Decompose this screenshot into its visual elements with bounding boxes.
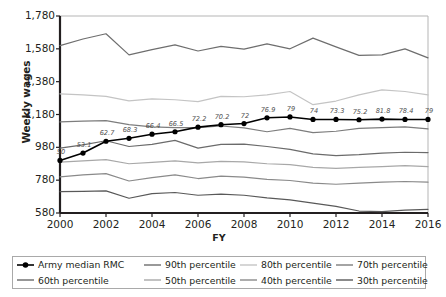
data-point-label: 68.3	[123, 126, 138, 134]
legend-grid: Army median RMC90th percentile80th perce…	[13, 257, 425, 288]
legend-item-label: 90th percentile	[165, 259, 236, 270]
x-axis-tick-label: 2002	[83, 218, 129, 230]
x-axis-tick-label: 2000	[37, 218, 83, 230]
data-point-label: 81.8	[376, 107, 391, 115]
data-point-label: 66.4	[146, 122, 161, 130]
legend-item-label: 40th percentile	[261, 275, 332, 286]
legend-item-label: 70th percentile	[357, 259, 428, 270]
y-axis-title: Weekly wages	[20, 32, 32, 172]
legend-item[interactable]: 90th percentile	[144, 259, 240, 270]
legend-line-icon	[17, 275, 34, 285]
legend-item-label: 60th percentile	[38, 275, 109, 286]
legend-item[interactable]: 50th percentile	[144, 275, 240, 286]
data-point-label: 50	[57, 148, 65, 156]
data-point-label: 66.5	[169, 120, 184, 128]
legend-line-icon	[336, 260, 353, 270]
data-point-label: 73.3	[330, 107, 345, 115]
x-axis-title: FY	[0, 232, 438, 243]
x-axis-tick-label: 2012	[313, 218, 359, 230]
x-axis-tick-label: 2016	[405, 218, 446, 230]
data-point-label: 79	[425, 107, 433, 115]
x-axis-tick-label: 2010	[267, 218, 313, 230]
data-point-label: 76.9	[261, 106, 276, 114]
legend-line-icon	[240, 260, 257, 270]
legend-line-icon	[144, 275, 161, 285]
data-point-label: 74	[310, 107, 318, 115]
chart-legend: Army median RMC90th percentile80th perce…	[12, 256, 426, 289]
data-point-label: 79	[287, 105, 295, 113]
legend-item-label: 50th percentile	[165, 275, 236, 286]
legend-item-label: 30th percentile	[357, 275, 428, 286]
x-axis-tick-label: 2008	[221, 218, 267, 230]
data-point-label: 72.2	[192, 115, 207, 123]
legend-marker-line-icon	[17, 260, 34, 270]
legend-line-icon	[240, 275, 257, 285]
x-axis-tick-label: 2014	[359, 218, 405, 230]
data-point-label: 62.7	[100, 129, 115, 137]
legend-item[interactable]: 70th percentile	[336, 259, 429, 270]
x-axis-tick-labels: 200020022004200620082010201220142016	[0, 0, 438, 250]
x-axis-tick-label: 2006	[175, 218, 221, 230]
legend-item[interactable]: 30th percentile	[336, 275, 429, 286]
legend-item[interactable]: 40th percentile	[240, 275, 336, 286]
legend-item[interactable]: 80th percentile	[240, 259, 336, 270]
data-point-label: 75.2	[353, 108, 368, 116]
legend-item[interactable]: Army median RMC	[17, 259, 144, 270]
plot-area: 5807809801,1801,3801,5801,780 2000200220…	[0, 0, 438, 250]
data-point-label: 72	[241, 112, 249, 120]
x-axis-tick-label: 2004	[129, 218, 175, 230]
legend-line-icon	[144, 260, 161, 270]
data-point-label: 53.1	[77, 141, 92, 149]
legend-item[interactable]: 60th percentile	[17, 275, 144, 286]
legend-line-icon	[336, 275, 353, 285]
data-point-label: 78.4	[399, 107, 414, 115]
legend-item-label: Army median RMC	[38, 259, 124, 270]
data-point-label: 70.2	[215, 113, 230, 121]
legend-item-label: 80th percentile	[261, 259, 332, 270]
